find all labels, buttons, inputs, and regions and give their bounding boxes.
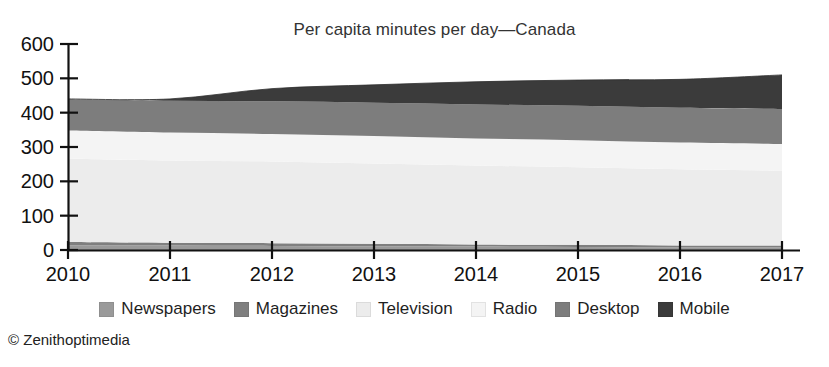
x-tick-label: 2013 <box>352 263 397 285</box>
legend-item-radio[interactable]: Radio <box>471 299 537 319</box>
legend-item-newspapers[interactable]: Newspapers <box>99 299 216 319</box>
y-tick-label: 500 <box>21 67 54 89</box>
legend-swatch-icon <box>234 302 249 317</box>
legend-label: Radio <box>493 299 537 319</box>
legend-label: Television <box>378 299 453 319</box>
y-tick-label: 0 <box>43 239 54 261</box>
legend-swatch-icon <box>356 302 371 317</box>
legend-swatch-icon <box>658 302 673 317</box>
legend-label: Desktop <box>577 299 639 319</box>
stacked-areas <box>68 75 782 250</box>
area-chart-plot: 0100200300400500600 20102011201220132014… <box>0 0 829 300</box>
legend-swatch-icon <box>471 302 486 317</box>
x-tick-label: 2015 <box>556 263 601 285</box>
y-tick-label: 300 <box>21 136 54 158</box>
y-tick-label: 600 <box>21 33 54 55</box>
legend-swatch-icon <box>555 302 570 317</box>
x-tick-label: 2010 <box>46 263 91 285</box>
chart-figure: Per capita minutes per day—Canada 010020… <box>0 0 829 367</box>
y-tick-labels: 0100200300400500600 <box>21 33 54 261</box>
legend-label: Mobile <box>680 299 730 319</box>
legend-label: Newspapers <box>121 299 216 319</box>
legend-item-desktop[interactable]: Desktop <box>555 299 639 319</box>
y-tick-label: 100 <box>21 205 54 227</box>
x-tick-label: 2014 <box>454 263 499 285</box>
x-tick-label: 2017 <box>760 263 805 285</box>
legend-item-television[interactable]: Television <box>356 299 453 319</box>
chart-legend: NewspapersMagazinesTelevisionRadioDeskto… <box>0 299 829 319</box>
x-tick-label: 2011 <box>148 263 191 285</box>
chart-credit: © Zenithoptimedia <box>8 331 130 348</box>
y-tick-label: 200 <box>21 170 54 192</box>
legend-item-magazines[interactable]: Magazines <box>234 299 338 319</box>
legend-label: Magazines <box>256 299 338 319</box>
legend-item-mobile[interactable]: Mobile <box>658 299 730 319</box>
x-tick-labels: 20102011201220132014201520162017 <box>46 263 805 285</box>
y-tick-label: 400 <box>21 102 54 124</box>
x-tick-label: 2016 <box>658 263 703 285</box>
legend-swatch-icon <box>99 302 114 317</box>
x-tick-label: 2012 <box>250 263 295 285</box>
area-series-television <box>68 159 782 246</box>
